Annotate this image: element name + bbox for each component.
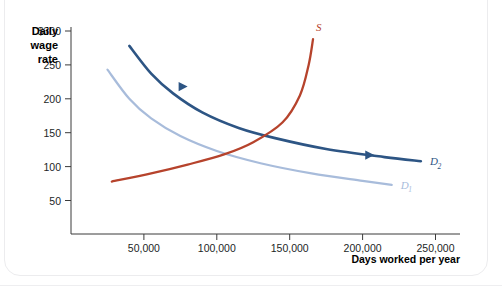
curve-sublabel-d1: 1 [408, 185, 412, 194]
y-axis-title-line-2: wage [29, 39, 58, 51]
y-axis-title-line-3: rate [38, 53, 58, 65]
curve-label-s: S [316, 21, 322, 33]
y-tick-label: 200 [43, 93, 61, 105]
y-axis-title-line-1: Daily [32, 25, 59, 37]
upper-shift-arrow-head [179, 82, 188, 91]
shift-arrows-layer [148, 82, 374, 160]
chart-axes [71, 27, 460, 234]
y-axis-title: Daily wage rate [29, 25, 58, 65]
y-tick-label: 150 [43, 127, 61, 139]
supply-demand-chart: $30025020015010050 50,000100,000150,0002… [0, 0, 502, 293]
curve-d2 [129, 46, 421, 161]
curves-layer [107, 39, 420, 185]
y-tick-label: 100 [43, 161, 61, 173]
figure-container: $30025020015010050 50,000100,000150,0002… [0, 0, 502, 293]
x-axis-title: Days worked per year [351, 253, 460, 265]
x-tick-label: 150,000 [271, 242, 309, 254]
curve-labels-layer: D1D2S [316, 21, 441, 194]
x-tick-label: 50,000 [128, 242, 160, 254]
curve-sublabel-d2: 2 [437, 162, 441, 171]
y-tick-label: 50 [49, 195, 61, 207]
x-tick-label: 100,000 [198, 242, 236, 254]
x-axis-ticks: 50,000100,000150,000200,000250,000 [128, 234, 455, 254]
